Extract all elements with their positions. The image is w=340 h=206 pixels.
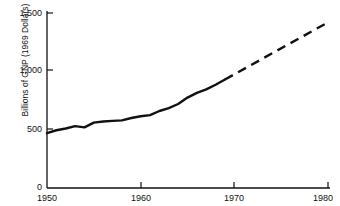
x-axis-ticks	[141, 182, 328, 188]
gnp-line-chart: Billions of GNP (1969 Dollars) 1,500 1,0…	[0, 0, 340, 206]
axis-lines	[47, 11, 330, 188]
plot-area	[0, 0, 340, 206]
series-line-projected	[225, 22, 328, 79]
series-line-actual	[47, 80, 225, 134]
y-axis-ticks	[47, 13, 53, 129]
